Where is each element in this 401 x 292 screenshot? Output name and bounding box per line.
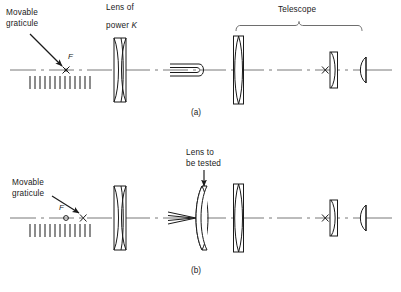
telescope-objective-a [234, 36, 244, 104]
telescope-field-lens-a [330, 52, 338, 88]
telescope-field-lens-b [330, 200, 338, 236]
graticule-pointer-arrow-b [52, 196, 79, 213]
figure-canvas [0, 0, 401, 292]
lens-power-label-line2-a: power K [106, 14, 137, 32]
telescope-brace-a [236, 22, 362, 32]
focus-symbol-b: F [59, 203, 64, 212]
lens-power-label-prefix-a: power [106, 21, 131, 30]
panel-b-group [10, 170, 392, 252]
telescope-eye-lens-b [360, 205, 366, 231]
graticule-ticks-b [30, 224, 90, 237]
lens-under-test-b [196, 186, 208, 250]
graticule-pointer-arrow-a [30, 34, 62, 66]
panel-a-group [10, 22, 392, 105]
panel-id-a: (a) [191, 108, 201, 117]
panel-id-b: (b) [191, 266, 201, 275]
focus-symbol-a: F [68, 52, 73, 61]
collimating-doublet-b [114, 186, 126, 250]
graticule-ticks-a [30, 76, 90, 89]
telescope-objective-b [234, 184, 244, 252]
telescope-eye-lens-a [360, 57, 366, 83]
lens-power-symbol-a: K [131, 21, 137, 30]
collimating-doublet-a [114, 38, 126, 102]
optical-diagram-figure: Movable graticule Lens of power K Telesc… [0, 0, 401, 292]
